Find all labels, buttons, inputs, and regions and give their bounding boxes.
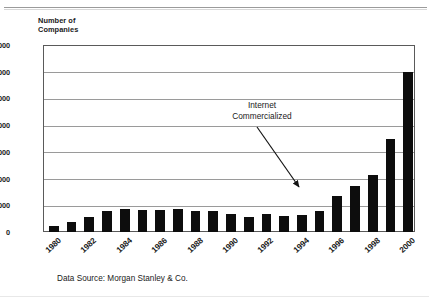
x-axis-tick-label: 1996 bbox=[318, 236, 346, 263]
x-axis-tick-label: 1998 bbox=[353, 236, 381, 263]
bar bbox=[315, 211, 325, 232]
bar bbox=[403, 72, 413, 232]
y-axis-tick-label: 1,000 bbox=[0, 201, 10, 210]
bar bbox=[332, 196, 342, 232]
bar bbox=[226, 214, 236, 232]
x-axis-tick-label: 1984 bbox=[105, 236, 133, 263]
x-axis-tick-label: 2000 bbox=[389, 236, 417, 263]
chart-figure: Number of Companies 7,0006,0005,0004,000… bbox=[0, 0, 429, 299]
bar bbox=[84, 217, 94, 232]
scan-artifact-rule-bottom bbox=[0, 296, 429, 297]
annotation-arrow-icon bbox=[255, 125, 315, 197]
bar bbox=[49, 226, 59, 232]
bar bbox=[368, 175, 378, 232]
x-axis-tick-label: 1986 bbox=[141, 236, 169, 263]
x-axis-tick-label: 1990 bbox=[212, 236, 240, 263]
y-axis-tick-label: 5,000 bbox=[0, 94, 10, 103]
y-axis-tick-label: 2,000 bbox=[0, 174, 10, 183]
bar bbox=[244, 217, 254, 232]
x-axis-tick-label: 1980 bbox=[35, 236, 63, 263]
bar bbox=[208, 211, 218, 232]
scan-artifact-rule-top bbox=[4, 7, 427, 8]
bar bbox=[191, 211, 201, 232]
y-axis-tick-label: 6,000 bbox=[0, 67, 10, 76]
bar bbox=[102, 211, 112, 232]
bar bbox=[173, 209, 183, 232]
y-axis-title: Number of Companies bbox=[38, 16, 78, 34]
bar bbox=[386, 139, 396, 233]
annotation-label-internet-commercialized: Internet Commercialized bbox=[203, 100, 321, 122]
y-axis-tick-label: 7,000 bbox=[0, 41, 10, 50]
y-axis-tick-label: 4,000 bbox=[0, 121, 10, 130]
x-axis-tick-label: 1982 bbox=[70, 236, 98, 263]
x-axis-tick-label: 1994 bbox=[283, 236, 311, 263]
x-axis-tick-label: 1988 bbox=[176, 236, 204, 263]
source-caption: Data Source: Morgan Stanley & Co. bbox=[57, 274, 188, 283]
bar bbox=[155, 210, 165, 232]
bar bbox=[120, 209, 130, 233]
bar bbox=[297, 215, 307, 232]
scan-artifact-rule-top-secondary bbox=[4, 9, 427, 10]
bar-series bbox=[44, 45, 414, 232]
y-axis-tick-label: 3,000 bbox=[0, 147, 10, 156]
bar bbox=[67, 222, 77, 232]
x-axis-tick-label: 1992 bbox=[247, 236, 275, 263]
bar bbox=[279, 216, 289, 232]
y-axis-tick-label: 0 bbox=[0, 228, 10, 237]
bar bbox=[350, 186, 360, 232]
bar bbox=[262, 214, 272, 232]
bar bbox=[138, 210, 148, 232]
